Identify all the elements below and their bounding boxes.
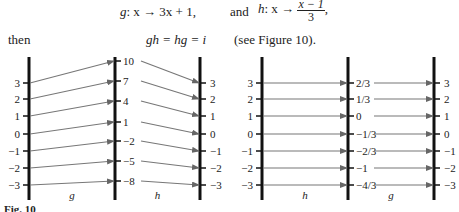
output-label: −3 (444, 179, 456, 191)
output-label: −3 (210, 179, 222, 191)
mapping-diagram-g-then-h: 3103272141010−1−2−1−2−5−2−3−8−3gh (8, 55, 222, 201)
output-label: 1 (444, 110, 450, 122)
arrow-first-map (30, 122, 114, 134)
first-map-label: g (69, 189, 75, 201)
middle-label: 4 (123, 95, 129, 107)
input-label: 3 (248, 77, 254, 89)
output-label: −2 (444, 162, 456, 174)
arrow-first-map (30, 81, 114, 99)
arrow-first-map (30, 141, 114, 151)
output-label: 3 (210, 77, 216, 89)
mapping-diagram-h-then-g: 32/3321/321010−1/30−1−2/3−1−2−1−2−3−4/3−… (241, 57, 456, 201)
input-label: 0 (248, 128, 254, 140)
middle-label: 1 (123, 116, 129, 128)
middle-label: 1/3 (356, 93, 371, 105)
input-label: −2 (241, 162, 253, 174)
output-label: −2 (210, 162, 222, 174)
middle-label: −5 (123, 155, 135, 167)
figure-10: 3103272141010−1−2−1−2−5−2−3−8−3gh32/3321… (0, 0, 459, 212)
input-label: 3 (15, 77, 21, 89)
output-label: 1 (210, 110, 216, 122)
input-label: 0 (15, 128, 21, 140)
output-label: 2 (444, 93, 450, 105)
arrow-second-map (141, 161, 199, 168)
input-label: −1 (8, 145, 20, 157)
input-label: 1 (15, 110, 21, 122)
middle-label: −2/3 (356, 145, 377, 157)
input-label: −1 (241, 145, 253, 157)
arrow-second-map (141, 101, 199, 116)
figure-caption: Fig. 10 (4, 203, 36, 212)
middle-label: −4/3 (356, 179, 377, 191)
second-map-label: h (155, 189, 161, 201)
output-label: 0 (444, 128, 450, 140)
middle-label: −1/3 (356, 128, 377, 140)
middle-label: −8 (123, 175, 135, 187)
input-label: −3 (241, 179, 253, 191)
input-label: −2 (8, 162, 20, 174)
middle-label: 2/3 (356, 77, 371, 89)
arrow-second-map (141, 81, 199, 99)
arrow-second-map (141, 181, 199, 185)
arrow-second-map (141, 141, 199, 151)
middle-label: −2 (123, 135, 135, 147)
arrow-first-map (30, 101, 114, 116)
input-label: 2 (15, 93, 21, 105)
output-label: −1 (210, 145, 222, 157)
arrow-second-map (141, 61, 199, 83)
middle-label: −1 (356, 162, 368, 174)
input-label: 1 (248, 110, 254, 122)
arrow-second-map (141, 122, 199, 134)
output-label: 0 (210, 128, 216, 140)
middle-label: 7 (123, 75, 129, 87)
output-label: 2 (210, 93, 216, 105)
middle-label: 0 (356, 110, 362, 122)
output-label: −1 (444, 145, 456, 157)
output-label: 3 (444, 77, 450, 89)
arrow-first-map (30, 61, 114, 83)
second-map-label: g (388, 189, 394, 201)
middle-label: 10 (123, 55, 135, 67)
first-map-label: h (302, 189, 308, 201)
input-label: −3 (8, 179, 20, 191)
arrow-first-map (30, 161, 114, 168)
arrow-first-map (30, 181, 114, 185)
input-label: 2 (248, 93, 254, 105)
